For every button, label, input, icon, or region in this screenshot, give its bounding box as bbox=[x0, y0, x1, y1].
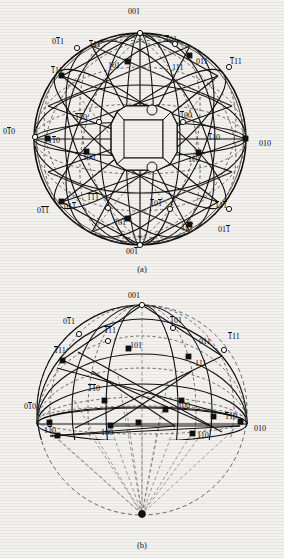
miller-digit: 1 bbox=[112, 326, 116, 335]
miller-digit: 0 bbox=[205, 431, 209, 440]
miller-digit: 1 bbox=[203, 359, 207, 368]
miller-digit: 1 bbox=[178, 402, 182, 410]
pole-label-010: 010 bbox=[254, 425, 266, 433]
miller-digit: 0 bbox=[233, 412, 237, 421]
panel-b-drawing bbox=[0, 276, 284, 558]
pole-label--111: 111 bbox=[89, 41, 101, 49]
pole-label-111: 111 bbox=[195, 360, 207, 368]
pole-label-101: 101 bbox=[108, 62, 120, 70]
miller-digit: 0 bbox=[267, 139, 271, 148]
miller-digit: 1 bbox=[204, 57, 208, 66]
miller-digit: 1 bbox=[173, 35, 177, 44]
panel-b-hemisphere bbox=[0, 276, 284, 558]
pole-label-100: 100 bbox=[101, 429, 113, 437]
miller-digit: 0 bbox=[216, 133, 220, 142]
pole-label-1-10: 110 bbox=[48, 137, 60, 145]
pole-label-10-1: 101 bbox=[114, 219, 126, 227]
pole-label-01-1: 011 bbox=[218, 226, 230, 234]
miller-digit: 1 bbox=[136, 7, 140, 16]
miller-digit: 1 bbox=[208, 134, 212, 142]
miller-digit: 0 bbox=[52, 426, 56, 435]
miller-digit: 0 bbox=[196, 155, 200, 164]
miller-digit: 1 bbox=[45, 207, 49, 215]
miller-digit: 1 bbox=[215, 202, 219, 210]
miller-digit: 1 bbox=[225, 413, 229, 421]
pole-label-111: 111 bbox=[172, 64, 184, 72]
stereographic-projection-figure: (a) (b) 00101111110110101111111111111010… bbox=[0, 0, 284, 558]
pole-label--1-10: 110 bbox=[88, 385, 100, 393]
pole-label-100: 100 bbox=[83, 154, 95, 162]
miller-digit: 1 bbox=[54, 347, 58, 355]
miller-digit: 1 bbox=[95, 194, 99, 202]
panel-a-labels bbox=[0, 0, 284, 282]
pole-label-110: 110 bbox=[188, 156, 200, 164]
pole-label-0-11: 011 bbox=[63, 318, 75, 326]
miller-digit: 0 bbox=[188, 111, 192, 120]
pole-label-110: 110 bbox=[197, 432, 209, 440]
pole-label-0-1-1: 011 bbox=[37, 207, 49, 215]
miller-digit: 0 bbox=[186, 401, 190, 410]
miller-digit: 1 bbox=[59, 66, 63, 75]
pole-label-1-10: 110 bbox=[44, 427, 56, 435]
pole-label-010: 010 bbox=[259, 140, 271, 148]
pole-label-101: 101 bbox=[130, 342, 142, 350]
pole-label--10-1: 101 bbox=[150, 200, 162, 208]
miller-digit: 0 bbox=[91, 153, 95, 162]
miller-digit: 1 bbox=[158, 200, 162, 208]
south-pole-point bbox=[139, 511, 146, 518]
miller-digit: 1 bbox=[51, 67, 55, 75]
miller-digit: 1 bbox=[7, 128, 11, 136]
miller-digit: 1 bbox=[48, 427, 52, 435]
panel-a-full-sphere bbox=[0, 0, 284, 282]
miller-digit: 1 bbox=[230, 58, 234, 66]
miller-digit: 1 bbox=[223, 202, 227, 210]
pole-label--110: 110 bbox=[225, 413, 237, 421]
miller-digit: 1 bbox=[92, 385, 96, 393]
pole-label--111b: 111 bbox=[230, 58, 242, 66]
pole-label-001: 001 bbox=[128, 8, 140, 16]
miller-digit: 0 bbox=[11, 127, 15, 136]
miller-digit: 1 bbox=[228, 333, 232, 341]
miller-digit: 1 bbox=[60, 37, 64, 46]
miller-digit: 1 bbox=[97, 40, 101, 49]
pole-label-011: 011 bbox=[199, 338, 211, 346]
miller-digit: 1 bbox=[165, 36, 169, 44]
miller-digit: 1 bbox=[226, 226, 230, 234]
pole-label--1-11: 111 bbox=[104, 327, 116, 335]
caption-b: (b) bbox=[0, 540, 284, 550]
miller-digit: 1 bbox=[170, 317, 174, 325]
pole-label--111: 111 bbox=[228, 333, 240, 341]
miller-digit: 0 bbox=[83, 113, 87, 122]
pole-label--111b: 111 bbox=[54, 347, 66, 355]
pole-label-01-1b: 011 bbox=[64, 203, 76, 211]
miller-digit: 0 bbox=[32, 402, 36, 411]
miller-digit: 1 bbox=[52, 137, 56, 145]
pole-label-001: 001 bbox=[128, 292, 140, 300]
miller-digit: 1 bbox=[238, 57, 242, 66]
miller-digit: 1 bbox=[71, 317, 75, 326]
miller-digit: 1 bbox=[122, 219, 126, 227]
miller-digit: 1 bbox=[178, 316, 182, 325]
pole-label--1-11: 111 bbox=[51, 67, 63, 75]
miller-digit: 1 bbox=[108, 327, 112, 335]
miller-digit: 0 bbox=[56, 136, 60, 145]
pole-label--101: 101 bbox=[165, 36, 177, 44]
miller-digit: 0 bbox=[109, 428, 113, 437]
miller-digit: 1 bbox=[72, 203, 76, 211]
miller-digit: 1 bbox=[136, 291, 140, 300]
pole-label--100: 100 bbox=[178, 402, 190, 410]
miller-digit: 1 bbox=[138, 341, 142, 350]
pole-label-00-1: 001 bbox=[126, 248, 138, 256]
miller-digit: 1 bbox=[207, 337, 211, 346]
miller-digit: 1 bbox=[236, 332, 240, 341]
miller-digit: 1 bbox=[180, 112, 184, 120]
miller-digit: 1 bbox=[116, 61, 120, 70]
pole-label--100: 100 bbox=[180, 112, 192, 120]
pole-label-0-11: 011 bbox=[52, 38, 64, 46]
miller-digit: 1 bbox=[56, 38, 60, 46]
pole-label-0-10: 010 bbox=[24, 403, 36, 411]
pole-label--1-1-1: 111 bbox=[87, 194, 99, 202]
miller-digit: 1 bbox=[189, 224, 193, 232]
miller-digit: 0 bbox=[262, 424, 266, 433]
pole-label-011: 011 bbox=[196, 58, 208, 66]
